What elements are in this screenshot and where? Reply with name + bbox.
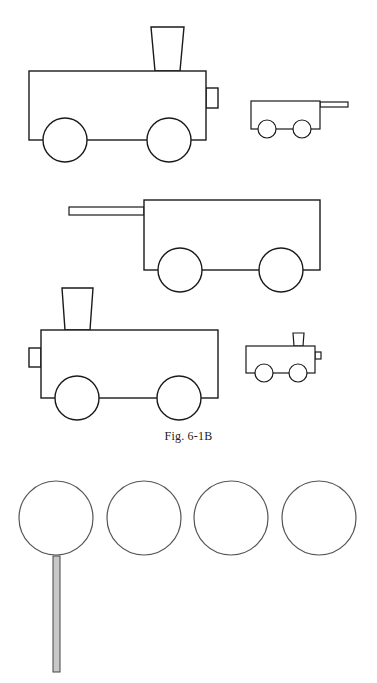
wagon-handle [69, 207, 144, 215]
circle [194, 481, 268, 555]
smokestack [293, 333, 304, 346]
wagon-small [251, 101, 348, 138]
circle-with-stick [19, 481, 93, 555]
smokestack [151, 27, 184, 71]
wheel-icon [259, 248, 303, 292]
wheel-icon [55, 376, 99, 420]
circle-row [19, 481, 356, 672]
front-block [206, 88, 218, 108]
circle [107, 481, 181, 555]
wagon-handle [320, 102, 348, 107]
wheel-icon [157, 376, 201, 420]
front-block [29, 348, 41, 367]
wheel-icon [289, 364, 307, 382]
wheel-icon [255, 364, 273, 382]
stick [53, 556, 60, 672]
locomotive-small [246, 333, 321, 382]
smokestack [62, 288, 93, 330]
wagon-large [69, 200, 320, 292]
wheel-icon [43, 118, 87, 162]
wheel-icon [293, 120, 311, 138]
figure-caption: Fig. 6-1B [0, 429, 377, 444]
wheel-icon [147, 118, 191, 162]
front-block [315, 352, 321, 359]
locomotive-large-right [29, 27, 218, 162]
circle [282, 481, 356, 555]
wheel-icon [158, 248, 202, 292]
locomotive-large-left [29, 288, 218, 420]
figure-canvas [0, 0, 377, 683]
wheel-icon [258, 120, 276, 138]
